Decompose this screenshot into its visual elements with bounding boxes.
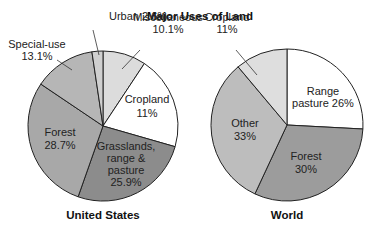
us-special-name: Special-use — [8, 38, 65, 50]
world-forest-pct: 30% — [295, 163, 317, 175]
world-range-line1: Range — [307, 85, 339, 97]
land-use-chart: Major Uses of Land Urban 2.6% Miscellane… — [0, 0, 368, 225]
us-grass-line3: pasture — [108, 164, 145, 176]
us-misc-name: Miscellaneous — [133, 11, 203, 23]
world-caption: World — [271, 209, 303, 221]
us-cropland-pct: 11% — [136, 107, 157, 119]
us-cropland-name: Cropland — [125, 93, 170, 105]
us-grass-line2: range & — [107, 152, 146, 164]
world-other-name: Other — [231, 117, 259, 129]
world-forest-name: Forest — [290, 150, 321, 162]
world-range-line2: pasture 26% — [292, 97, 354, 109]
us-grass-line1: Grasslands, — [97, 140, 156, 152]
us-caption: United States — [66, 209, 140, 221]
us-special-pct: 13.1% — [21, 50, 52, 62]
us-forest-pct: 28.7% — [44, 139, 75, 151]
world-cropland-pct: 11% — [216, 23, 237, 35]
us-misc-pct: 10.1% — [152, 23, 183, 35]
world-other-pct: 33% — [234, 130, 256, 142]
us-forest-name: Forest — [44, 126, 75, 138]
world-cropland-name: Cropland — [205, 11, 250, 23]
us-grass-pct: 25.9% — [110, 176, 141, 188]
